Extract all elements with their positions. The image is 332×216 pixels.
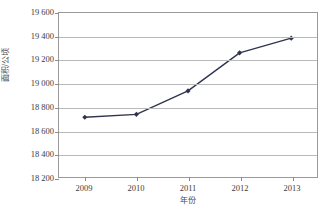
- plot-area: [58, 12, 318, 178]
- x-axis-tick-mark: [137, 177, 138, 181]
- y-axis-tick-label: 18 200: [8, 174, 54, 183]
- y-axis-tick-mark: [55, 60, 59, 61]
- x-axis-tick-mark: [85, 177, 86, 181]
- x-axis-tick-label: 2009: [61, 183, 107, 193]
- line-chart: 面积/公顷 18 20018 40018 60018 80019 00019 2…: [0, 0, 332, 216]
- y-axis-tick-mark: [55, 84, 59, 85]
- y-axis-tick-label: 18 800: [8, 102, 54, 111]
- x-axis-title: 年份: [58, 196, 318, 206]
- data-point-marker: [82, 115, 87, 120]
- y-axis-tick-label: 18 400: [8, 150, 54, 159]
- data-point-marker: [134, 112, 139, 117]
- x-axis-tick-label: 2012: [217, 183, 263, 193]
- x-axis-tick-mark: [241, 177, 242, 181]
- y-axis-tick-mark: [55, 155, 59, 156]
- gridline: [59, 155, 317, 156]
- y-axis-tick-label: 18 600: [8, 126, 54, 135]
- x-axis-tick-mark: [293, 177, 294, 181]
- x-axis-tick-labels: 20092010201120122013: [58, 183, 318, 195]
- y-axis-tick-label: 19 200: [8, 55, 54, 64]
- y-axis-tick-mark: [55, 179, 59, 180]
- y-axis-tick-label: 19 600: [8, 8, 54, 17]
- gridline: [59, 108, 317, 109]
- x-axis-tick-label: 2010: [113, 183, 159, 193]
- y-axis-tick-mark: [55, 13, 59, 14]
- y-axis-tick-label: 19 000: [8, 79, 54, 88]
- gridline: [59, 60, 317, 61]
- y-axis-tick-mark: [55, 37, 59, 38]
- x-axis-tick-label: 2011: [165, 183, 211, 193]
- series-line: [85, 38, 291, 117]
- y-axis-tick-mark: [55, 108, 59, 109]
- y-axis-tick-labels: 18 20018 40018 60018 80019 00019 20019 4…: [8, 12, 54, 178]
- x-axis-tick-mark: [189, 177, 190, 181]
- gridline: [59, 132, 317, 133]
- gridline: [59, 37, 317, 38]
- y-axis-tick-label: 19 400: [8, 31, 54, 40]
- x-axis-tick-label: 2013: [269, 183, 315, 193]
- y-axis-tick-mark: [55, 132, 59, 133]
- gridline: [59, 84, 317, 85]
